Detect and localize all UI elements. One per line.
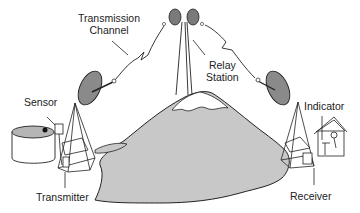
receiver-label: Receiver [290, 190, 331, 202]
receiver-dish [256, 67, 295, 108]
transmitter-dish [73, 67, 116, 108]
sensor-pointer [47, 117, 55, 125]
house [314, 117, 347, 156]
transmission-channel-pointer [112, 41, 128, 55]
tank [12, 124, 63, 165]
transmission-channel-label: Transmission Channel [78, 12, 140, 36]
relay-station-pointer [193, 40, 205, 55]
relay-station-line1: Relay [206, 59, 239, 71]
relay-station-label: Relay Station [206, 59, 239, 83]
transmitter-label: Transmitter [36, 191, 89, 203]
sensor-label: Sensor [24, 96, 57, 108]
relay-station-line2: Station [206, 71, 239, 83]
relay-station [162, 9, 203, 95]
transmission-channel-line2: Channel [78, 24, 140, 36]
transmitter-tower [58, 103, 95, 172]
transmission-channel-line1: Transmission [78, 12, 140, 24]
indicator-label: Indicator [304, 100, 344, 112]
